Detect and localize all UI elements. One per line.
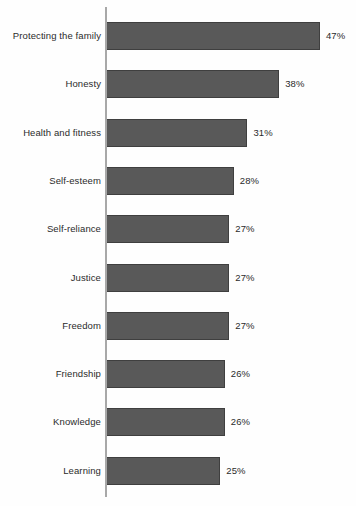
bar-value-label: 27%	[235, 264, 254, 292]
bar	[107, 22, 320, 50]
bar-row: Justice27%	[0, 264, 356, 292]
bar-row: Friendship26%	[0, 360, 356, 388]
bar-value-label: 27%	[235, 312, 254, 340]
bar	[107, 70, 279, 98]
category-label: Justice	[71, 264, 101, 292]
bar	[107, 264, 229, 292]
category-label: Honesty	[65, 70, 101, 98]
bar	[107, 408, 225, 436]
bar-row: Knowledge26%	[0, 408, 356, 436]
category-label: Knowledge	[53, 408, 101, 436]
bar-value-label: 38%	[285, 70, 304, 98]
bar	[107, 119, 247, 147]
bar	[107, 167, 234, 195]
bar-row: Self-reliance27%	[0, 215, 356, 243]
bar-value-label: 28%	[240, 167, 259, 195]
bar	[107, 215, 229, 243]
bar-row: Freedom27%	[0, 312, 356, 340]
bar-value-label: 27%	[235, 215, 254, 243]
bar-value-label: 26%	[231, 408, 250, 436]
bar-row: Protecting the family47%	[0, 22, 356, 50]
bar	[107, 312, 229, 340]
bar-row: Learning25%	[0, 457, 356, 485]
bar	[107, 457, 220, 485]
bar-value-label: 31%	[253, 119, 272, 147]
plot-area: Protecting the family47%Honesty38%Health…	[0, 0, 356, 506]
bar-value-label: 47%	[326, 22, 345, 50]
category-label: Self-esteem	[49, 167, 101, 195]
bar-chart: Protecting the family47%Honesty38%Health…	[0, 0, 356, 506]
category-label: Protecting the family	[13, 22, 101, 50]
category-label: Self-reliance	[47, 215, 101, 243]
bar-value-label: 26%	[231, 360, 250, 388]
category-label: Freedom	[62, 312, 101, 340]
category-label: Friendship	[56, 360, 101, 388]
bar	[107, 360, 225, 388]
category-label: Learning	[63, 457, 101, 485]
bar-row: Honesty38%	[0, 70, 356, 98]
bar-row: Health and fitness31%	[0, 119, 356, 147]
bar-value-label: 25%	[226, 457, 245, 485]
category-label: Health and fitness	[23, 119, 101, 147]
bar-row: Self-esteem28%	[0, 167, 356, 195]
